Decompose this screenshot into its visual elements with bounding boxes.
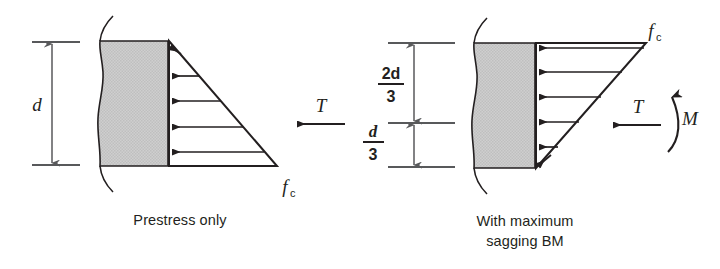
dimension-label-2d-over-3: 2d 3 <box>378 65 404 105</box>
stress-diagram-svg: d f c T Prestress only <box>0 0 720 269</box>
moment-label-M: M <box>681 108 699 129</box>
panel-caption-sagging-bm-line2: sagging BM <box>486 233 564 249</box>
figure-root: d f c T Prestress only <box>0 0 720 269</box>
svg-text:3: 3 <box>387 88 396 105</box>
panel-caption-prestress-only: Prestress only <box>133 212 227 228</box>
panel-caption-sagging-bm-line1: With maximum <box>476 213 573 229</box>
dimension-label-d: d <box>32 94 42 115</box>
stress-arrow-2-6 <box>538 155 551 166</box>
break-line-top-2 <box>474 18 487 43</box>
svg-text:c: c <box>656 31 662 43</box>
panel-prestress-only: d f c T Prestress only <box>32 16 345 228</box>
force-label-T-2: T <box>633 96 645 117</box>
stress-triangle <box>169 41 277 166</box>
panel-sagging-bm: 2d 3 d 3 <box>363 18 699 249</box>
dimension-label-d-over-3: d 3 <box>363 122 384 163</box>
force-label-T: T <box>316 95 328 116</box>
svg-text:2d: 2d <box>382 65 401 82</box>
break-line-bottom <box>100 166 113 192</box>
svg-text:d: d <box>369 122 378 141</box>
stress-label-fc-2: f c <box>648 20 662 43</box>
stress-label-fc: f c <box>282 176 296 199</box>
svg-text:3: 3 <box>369 146 378 163</box>
moment-arrow-M <box>668 97 678 152</box>
beam-section-shaded <box>98 41 168 166</box>
break-line-bottom-2 <box>474 168 487 194</box>
beam-section-shaded-2 <box>472 43 535 168</box>
break-line-top <box>100 16 113 41</box>
svg-text:c: c <box>290 187 296 199</box>
stress-triangle-2 <box>536 43 646 168</box>
